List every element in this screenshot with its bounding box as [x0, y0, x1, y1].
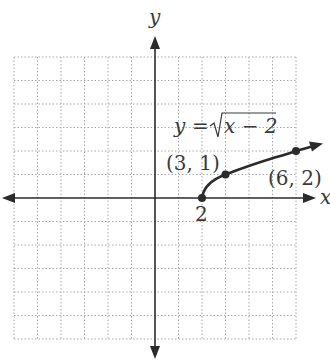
equation-radicand: x − 2	[224, 114, 277, 138]
point-2-0	[198, 194, 206, 202]
graph-canvas: y x 2 (3, 1) (6, 2) y = x − 2	[0, 0, 330, 364]
x-axis-right-arrow-icon	[303, 193, 316, 203]
y-axis-label: y	[148, 5, 161, 29]
y-axis-up-arrow-icon	[150, 36, 160, 49]
equation-lhs: y	[173, 114, 186, 138]
x-axis-left-arrow-icon	[2, 193, 15, 203]
equation-equals: =	[192, 114, 209, 138]
equation-label: y = x − 2	[173, 113, 277, 138]
point-label-6-2: (6, 2)	[268, 166, 322, 190]
point-label-3-1: (3, 1)	[166, 151, 220, 175]
point-6-2	[292, 147, 300, 155]
point-3-1	[222, 171, 230, 179]
x-tick-label-2: 2	[195, 202, 208, 226]
y-axis-down-arrow-icon	[150, 346, 160, 359]
curve-arrow-icon	[309, 142, 323, 152]
